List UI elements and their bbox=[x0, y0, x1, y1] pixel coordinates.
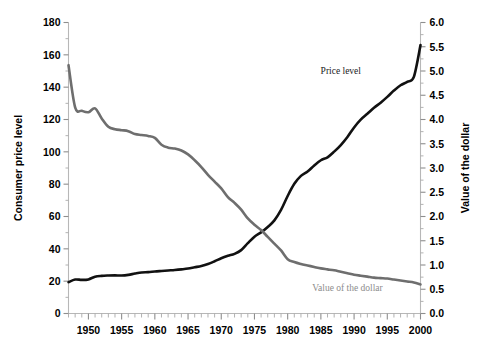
x-axis-tick-label: 1975 bbox=[243, 324, 267, 336]
x-axis-tick-label: 1960 bbox=[143, 324, 167, 336]
y2-axis-tick-label: 4.5 bbox=[430, 89, 445, 101]
chart-generated-layer: 0204060801001201401601800.00.51.01.52.02… bbox=[12, 16, 471, 335]
y2-axis-tick-label: 6.0 bbox=[430, 16, 445, 28]
x-axis-tick-label: 2000 bbox=[409, 324, 433, 336]
y-axis-tick-label: 140 bbox=[43, 81, 61, 93]
y2-axis-tick-label: 3.0 bbox=[430, 162, 445, 174]
series-annotation-label: Value of the dollar bbox=[312, 283, 383, 293]
x-axis-tick-label: 1995 bbox=[376, 324, 400, 336]
x-axis-tick-label: 1965 bbox=[176, 324, 200, 336]
x-axis-tick-label: 1955 bbox=[110, 324, 134, 336]
y-axis-tick-label: 20 bbox=[49, 275, 61, 287]
series-line-price-level bbox=[69, 45, 421, 282]
y-axis-tick-label: 160 bbox=[43, 49, 61, 61]
y2-axis-tick-label: 0.0 bbox=[430, 307, 445, 319]
x-axis-tick-label: 1950 bbox=[77, 324, 101, 336]
x-axis-tick-label: 1970 bbox=[210, 324, 234, 336]
y2-axis-tick-label: 4.0 bbox=[430, 113, 445, 125]
y-axis-tick-label: 0 bbox=[55, 307, 61, 319]
x-axis-tick-label: 1990 bbox=[342, 324, 366, 336]
y-axis-tick-label: 180 bbox=[43, 16, 61, 28]
y2-axis-tick-label: 1.0 bbox=[430, 259, 445, 271]
y2-axis-tick-label: 0.5 bbox=[430, 283, 445, 295]
y2-axis-tick-label: 1.5 bbox=[430, 235, 445, 247]
x-axis-tick-label: 1980 bbox=[276, 324, 300, 336]
axis-frame bbox=[69, 23, 421, 314]
x-axis-tick-label: 1985 bbox=[309, 324, 333, 336]
y-axis-tick-label: 100 bbox=[43, 146, 61, 158]
series-line-value-of-the-dollar bbox=[69, 65, 421, 284]
y2-axis-tick-label: 2.0 bbox=[430, 210, 445, 222]
chart-svg: 0204060801001201401601800.00.51.01.52.02… bbox=[0, 0, 488, 356]
y2-axis-tick-label: 3.5 bbox=[430, 138, 445, 150]
y-axis-tick-label: 60 bbox=[49, 210, 61, 222]
y-axis-tick-label: 120 bbox=[43, 113, 61, 125]
y2-axis-title: Value of the dollar bbox=[459, 123, 471, 213]
series-annotation-label: Price level bbox=[321, 66, 362, 76]
y2-axis-tick-label: 5.0 bbox=[430, 65, 445, 77]
y2-axis-tick-label: 2.5 bbox=[430, 186, 445, 198]
y-axis-tick-label: 40 bbox=[49, 243, 61, 255]
y-axis-title: Consumer price level bbox=[12, 115, 24, 221]
y-axis-tick-label: 80 bbox=[49, 178, 61, 190]
y2-axis-tick-label: 5.5 bbox=[430, 41, 445, 53]
chart-container: 0204060801001201401601800.00.51.01.52.02… bbox=[0, 0, 488, 356]
